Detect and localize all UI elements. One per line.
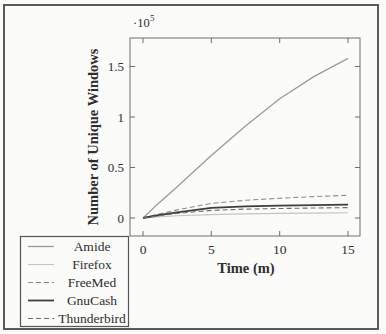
y-axis-multiplier-exponent: 5	[150, 13, 155, 23]
series-line-amide	[143, 58, 348, 218]
x-tick-label-5: 5	[208, 242, 215, 257]
x-axis-label: Time (m)	[217, 260, 274, 277]
legend-label-gnucash: GnuCash	[67, 293, 117, 308]
x-tick-label-15: 15	[341, 242, 355, 257]
y-axis-label: Number of Unique Windows	[85, 48, 101, 225]
y-tick-label-0-5: 0.5	[108, 160, 124, 175]
y-tick-label-1: 1	[118, 110, 125, 125]
x-tick-label-0: 0	[140, 242, 147, 257]
y-tick-label-0: 0	[118, 211, 125, 226]
series-lines	[143, 58, 348, 218]
y-tick-label-1-5: 1.5	[108, 59, 124, 74]
legend-label-thunderbird: Thunderbird	[58, 311, 126, 326]
legend-label-firefox: Firefox	[72, 257, 112, 272]
legend-label-amide: Amide	[74, 239, 111, 254]
chart-figure: ·10 5 0 0.5 1 1.5 0 5 10 15 Time (m) Num…	[0, 0, 386, 334]
y-axis-multiplier: ·10	[133, 16, 150, 30]
legend: Amide Firefox FreeMed GnuCash Thunderbir…	[21, 237, 129, 327]
legend-label-freemed: FreeMed	[68, 275, 117, 290]
x-tick-label-10: 10	[273, 242, 287, 257]
